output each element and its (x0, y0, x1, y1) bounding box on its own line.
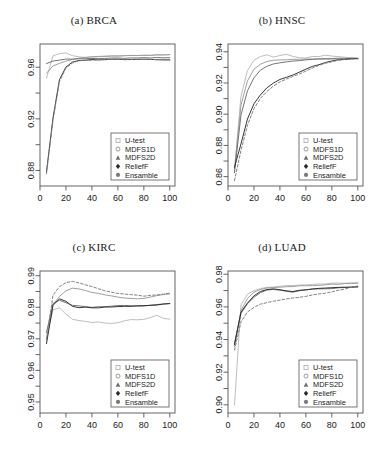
y-tick-label: 0.92 (26, 110, 36, 128)
y-tick-label: 0.88 (26, 162, 36, 180)
legend-label: Ensamble (125, 171, 158, 180)
y-tick-label: 0.96 (214, 298, 224, 316)
x-tick-label: 80 (139, 420, 149, 430)
y-tick-label: 0.98 (26, 299, 36, 317)
x-tick-label: 60 (113, 420, 123, 430)
x-tick-label: 20 (249, 193, 259, 203)
panel-hnsc: (b) HNSC 0204060801000.860.880.900.920.9… (188, 0, 376, 227)
y-tick-label: 0.90 (214, 396, 224, 414)
y-tick-label: 0.98 (214, 265, 224, 283)
legend: U-testMDFS1DMDFS2DReliefFEnsamble (111, 133, 169, 180)
x-tick-label: 80 (327, 193, 337, 203)
x-tick-label: 0 (37, 420, 42, 430)
x-tick-label: 20 (249, 420, 259, 430)
y-tick-label: 0.92 (214, 74, 224, 92)
y-tick-label: 0.86 (214, 168, 224, 186)
panel-kirc: (c) KIRC 0204060801000.950.960.970.980.9… (0, 227, 188, 454)
filled-circle-marker-icon (304, 173, 308, 177)
x-tick-label: 40 (87, 420, 97, 430)
y-tick-label: 0.90 (214, 105, 224, 123)
y-tick-label: 0.95 (26, 393, 36, 411)
figure-container: (a) BRCA 0204060801000.880.920.96U-testM… (0, 0, 376, 454)
plot-brca: 0204060801000.880.920.96U-testMDFS1DMDFS… (0, 0, 188, 227)
y-tick-label: 0.97 (26, 330, 36, 348)
y-tick-label: 0.88 (214, 137, 224, 155)
x-tick-label: 40 (87, 193, 97, 203)
x-tick-label: 40 (275, 420, 285, 430)
panel-brca: (a) BRCA 0204060801000.880.920.96U-testM… (0, 0, 188, 227)
legend: U-testMDFS1DMDFS2DReliefFEnsamble (299, 133, 357, 180)
legend: U-testMDFS1DMDFS2DReliefFEnsamble (299, 360, 357, 407)
x-tick-label: 0 (225, 420, 230, 430)
y-tick-label: 0.94 (214, 331, 224, 349)
y-tick-label: 0.94 (214, 43, 224, 61)
x-tick-label: 20 (61, 420, 71, 430)
y-tick-label: 0.96 (26, 58, 36, 76)
legend: U-testMDFS1DMDFS2DReliefFEnsamble (111, 360, 169, 407)
y-tick-label: 0.96 (26, 362, 36, 380)
y-tick-label: 0.92 (214, 363, 224, 381)
x-tick-label: 60 (301, 420, 311, 430)
legend-label: Ensamble (313, 171, 346, 180)
x-tick-label: 100 (162, 420, 177, 430)
x-tick-label: 100 (162, 193, 177, 203)
x-tick-label: 20 (61, 193, 71, 203)
filled-circle-marker-icon (116, 173, 120, 177)
plot-kirc: 0204060801000.950.960.970.980.99U-testMD… (0, 227, 188, 454)
filled-circle-marker-icon (304, 400, 308, 404)
x-tick-label: 60 (113, 193, 123, 203)
legend-label: Ensamble (313, 398, 346, 407)
filled-circle-marker-icon (116, 400, 120, 404)
x-tick-label: 100 (350, 193, 365, 203)
legend-label: Ensamble (125, 398, 158, 407)
x-tick-label: 80 (139, 193, 149, 203)
x-tick-label: 80 (327, 420, 337, 430)
plot-hnsc: 0204060801000.860.880.900.920.94U-testMD… (188, 0, 376, 227)
x-tick-label: 0 (225, 193, 230, 203)
x-tick-label: 0 (37, 193, 42, 203)
panel-luad: (d) LUAD 0204060801000.900.920.940.960.9… (188, 227, 376, 454)
x-tick-label: 40 (275, 193, 285, 203)
x-tick-label: 60 (301, 193, 311, 203)
y-tick-label: 0.99 (26, 267, 36, 285)
x-tick-label: 100 (350, 420, 365, 430)
plot-luad: 0204060801000.900.920.940.960.98U-testMD… (188, 227, 376, 454)
